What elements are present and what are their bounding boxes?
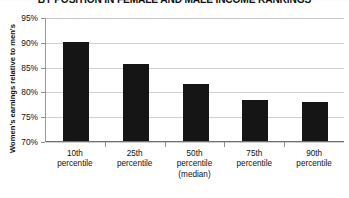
y-axis-tick-label: 75% (21, 112, 38, 122)
x-axis: 10thpercentile25thpercentile50thpercenti… (45, 142, 344, 198)
x-axis-category-line: percentile (44, 159, 106, 169)
x-axis-tick-mark (224, 142, 225, 147)
gridline (46, 68, 344, 69)
x-axis-category-line: percentile (223, 159, 285, 169)
x-axis-category-label: 10thpercentile (44, 149, 106, 170)
chart-title: BY POSITION IN FEMALE AND MALE INCOME RA… (0, 0, 349, 5)
x-axis-tick-mark (105, 142, 106, 147)
page-bottom-edge (0, 197, 349, 198)
x-axis-category-line: 75th (223, 149, 285, 159)
bar (183, 84, 209, 141)
x-axis-category-line: 50th (164, 149, 226, 159)
gridline (46, 18, 344, 19)
x-axis-category-label: 75thpercentile (223, 149, 285, 170)
x-axis-category-line: percentile (104, 159, 166, 169)
y-axis-tick-label: 70% (21, 137, 38, 147)
y-axis-tick-label: 85% (21, 63, 38, 73)
x-axis-category-label: 25thpercentile (104, 149, 166, 170)
gridline (46, 43, 344, 44)
x-axis-category-label: 50thpercentile(median) (164, 149, 226, 180)
x-axis-category-line: percentile (283, 159, 345, 169)
bar (63, 42, 89, 141)
y-axis-tick-label: 95% (21, 13, 38, 23)
bar-chart: BY POSITION IN FEMALE AND MALE INCOME RA… (0, 0, 349, 198)
x-axis-category-line: 90th (283, 149, 345, 159)
y-axis-tick-label: 90% (21, 38, 38, 48)
x-axis-category-label: 90thpercentile (283, 149, 345, 170)
bar (302, 102, 328, 141)
y-axis-tick-labels: 95%90%85%80%75%70% (0, 0, 45, 198)
x-axis-tick-mark (284, 142, 285, 147)
x-axis-category-line: (median) (164, 170, 226, 180)
plot-area (45, 18, 344, 142)
bar (123, 64, 149, 141)
y-axis-tick-label: 80% (21, 87, 38, 97)
x-axis-tick-mark (165, 142, 166, 147)
x-axis-category-line: 25th (104, 149, 166, 159)
x-axis-category-line: 10th (44, 149, 106, 159)
bar (242, 100, 268, 141)
x-axis-category-line: percentile (164, 159, 226, 169)
